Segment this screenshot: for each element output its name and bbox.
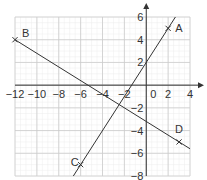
- x-tick-label: −6: [74, 88, 87, 100]
- point-label: A: [175, 22, 183, 34]
- y-tick-label: −8: [131, 170, 144, 180]
- point-d: D: [175, 123, 183, 145]
- x-tick-label: −8: [52, 88, 65, 100]
- y-tick-label: 6: [137, 11, 143, 23]
- point-label: D: [175, 123, 183, 135]
- x-tick-label: 0: [150, 88, 156, 100]
- y-axis-arrow-icon: [143, 3, 149, 9]
- point-label: B: [22, 27, 29, 39]
- y-tick-label: 2: [137, 56, 143, 68]
- x-tick-label: −12: [6, 88, 25, 100]
- point-c: C: [71, 156, 84, 168]
- coordinate-graph: −12−10−8−6−4−2024642−2−4−6−8 ABCD: [0, 0, 207, 180]
- y-tick-label: −6: [131, 147, 144, 159]
- x-tick-label: −10: [28, 88, 47, 100]
- x-tick-label: 4: [187, 88, 193, 100]
- x-tick-label: 2: [165, 88, 171, 100]
- x-axis-arrow-icon: [198, 82, 204, 88]
- y-tick-label: −2: [131, 102, 144, 114]
- y-tick-label: −4: [131, 125, 144, 137]
- tick-labels: −12−10−8−6−4−2024642−2−4−6−8: [6, 11, 193, 180]
- y-tick-label: 4: [137, 34, 143, 46]
- point-label: C: [71, 156, 79, 168]
